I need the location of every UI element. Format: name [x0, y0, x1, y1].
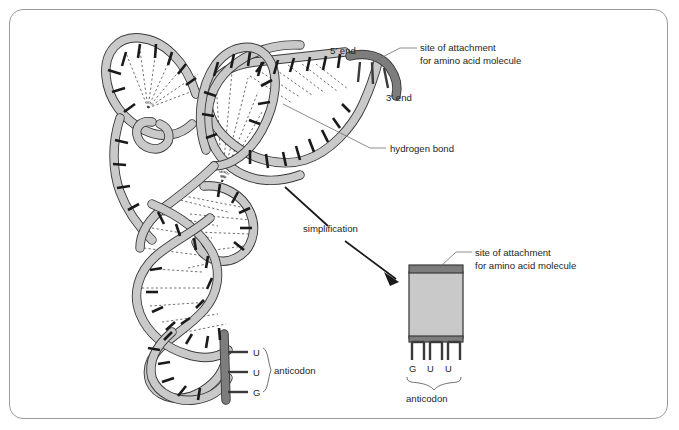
anticodon-prongs-simplified — [412, 342, 460, 360]
label-3-prime-end: 3′ end — [386, 92, 412, 103]
anticodon-prongs-detailed — [228, 352, 248, 392]
trna-simplified-model: G U U anticodon site of attachment for a… — [406, 247, 576, 404]
anticodon-base-2-detailed: U — [253, 367, 260, 378]
simplification-arrow-upper — [285, 187, 328, 226]
trna-detailed-model: U U G anticodon — [106, 38, 397, 400]
label-attachment-line2: for amino acid molecule — [420, 55, 521, 66]
simplification-arrow-lower — [345, 241, 396, 279]
simplification-arrowhead — [384, 272, 399, 286]
simplification-arrow-group: simplification — [285, 187, 399, 286]
ribbon-anticodon-segment — [224, 334, 226, 400]
anticodon-base-1-simplified: G — [409, 363, 416, 374]
anticodon-base-3-simplified: U — [445, 363, 452, 374]
label-attachment-simple-line1: site of attachment — [475, 247, 551, 258]
trna-diagram: U U G anticodon 5′ end 3′ end site of at… — [0, 0, 679, 430]
simplified-attachment-bar — [409, 265, 463, 273]
label-5-prime-end: 5′ end — [330, 45, 356, 56]
anticodon-base-2-simplified: U — [427, 363, 434, 374]
anticodon-label-simplified: anticodon — [406, 393, 448, 404]
label-simplification: simplification — [303, 223, 358, 234]
anticodon-base-3-detailed: G — [253, 387, 260, 398]
anticodon-brace-detailed — [263, 348, 271, 392]
anticodon-label-detailed: anticodon — [274, 365, 316, 376]
label-attachment-simple-line2: for amino acid molecule — [475, 260, 576, 271]
label-hydrogen-bond: hydrogen bond — [390, 143, 454, 154]
ribbon-anticodon-loop — [151, 332, 228, 400]
simplified-body — [409, 272, 463, 338]
anticodon-brace-simplified — [407, 377, 461, 390]
label-attachment-line1: site of attachment — [420, 42, 496, 53]
anticodon-base-1-detailed: U — [253, 347, 260, 358]
